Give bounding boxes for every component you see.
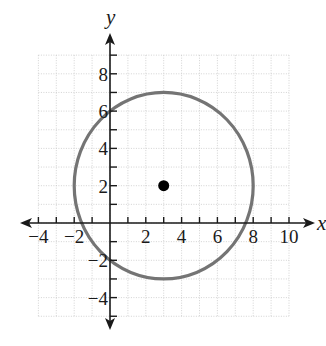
x-tick-label: −2 bbox=[64, 226, 84, 247]
center-point bbox=[158, 180, 169, 191]
x-tick-label: 6 bbox=[213, 226, 223, 247]
y-tick-label: 4 bbox=[99, 138, 109, 159]
points bbox=[158, 180, 169, 191]
x-tick-label: 4 bbox=[177, 226, 187, 247]
y-tick-label: −2 bbox=[88, 250, 108, 271]
y-axis-label: y bbox=[104, 5, 116, 29]
x-axis-label: x bbox=[316, 211, 326, 235]
x-tick-label: 8 bbox=[248, 226, 258, 247]
x-tick-label: 2 bbox=[141, 226, 151, 247]
y-tick-label: 8 bbox=[99, 64, 109, 85]
y-tick-label: −4 bbox=[88, 288, 109, 309]
y-tick-label: 6 bbox=[99, 101, 109, 122]
y-tick-label: 2 bbox=[99, 176, 109, 197]
x-tick-label: −4 bbox=[28, 226, 49, 247]
x-tick-label: 10 bbox=[280, 226, 299, 247]
circle-graph: −4−22468108642−2−4 x y bbox=[0, 0, 326, 346]
